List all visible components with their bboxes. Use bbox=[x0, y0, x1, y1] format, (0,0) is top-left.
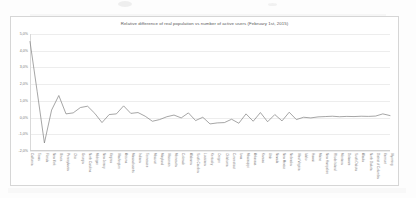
x-axis-tick-label: Mississippi bbox=[246, 153, 250, 167]
x-axis-tick-label: Idaho bbox=[304, 153, 308, 160]
x-axis-tick-label: Alaska bbox=[361, 153, 365, 162]
y-axis-tick-label: 0,0% bbox=[20, 116, 28, 120]
x-axis-tick-label: Georgia bbox=[81, 153, 85, 164]
x-axis-tick-label: Rhode Island bbox=[333, 153, 337, 170]
x-axis-tick-label: New Mexico bbox=[282, 153, 286, 169]
x-axis-tick-label: Pennsylvania bbox=[66, 153, 70, 171]
x-axis-tick-label: Montana bbox=[340, 153, 344, 165]
chart-title: Relative difference of real population v… bbox=[11, 21, 398, 26]
y-axis-tick-label: 1,0% bbox=[20, 99, 28, 103]
y-axis-tick-label: 5,0% bbox=[20, 32, 28, 36]
series-line-chart bbox=[30, 34, 390, 151]
x-axis-tick-label: Oregon bbox=[217, 153, 221, 163]
x-axis-tick-label: South Dakota bbox=[354, 153, 358, 171]
y-axis-tick-label: -1,0% bbox=[19, 132, 28, 136]
x-axis-tick-label: Wisconsin bbox=[167, 153, 171, 167]
x-axis-tick-label: Massachusetts bbox=[131, 153, 135, 173]
x-axis-tick-label: Washington bbox=[117, 153, 121, 169]
x-axis-tick-label: District of Columbia bbox=[376, 153, 380, 179]
x-axis-tick-label: Arizona bbox=[124, 153, 128, 163]
x-axis-tick-label: Oklahoma bbox=[225, 153, 229, 167]
x-axis-tick-label: West Virginia bbox=[297, 153, 301, 170]
scan-artifact bbox=[118, 1, 132, 7]
y-axis-tick-label: 3,0% bbox=[20, 65, 28, 69]
screenshot-page: Relative difference of real population v… bbox=[0, 0, 416, 198]
x-axis-tick-label: Illinois bbox=[59, 153, 63, 161]
x-axis-tick-label: California bbox=[30, 153, 34, 165]
x-axis-tick-label: Wyoming bbox=[390, 153, 394, 165]
x-axis-tick-label: Florida bbox=[45, 153, 49, 162]
x-axis-tick-label: Maryland bbox=[160, 153, 164, 165]
x-axis-tick-label: Connecticut bbox=[232, 153, 236, 169]
series-line bbox=[30, 42, 390, 143]
x-axis-tick-label: Arkansas bbox=[253, 153, 257, 165]
x-axis-tick-label: Kansas bbox=[261, 153, 265, 163]
x-axis-tick-label: Hawaii bbox=[311, 153, 315, 162]
x-axis-tick-label: Iowa bbox=[239, 153, 243, 159]
x-axis-tick-label: Tennessee bbox=[145, 153, 149, 167]
x-axis-tick-label: Kentucky bbox=[210, 153, 214, 165]
y-axis-tick-label: 2,0% bbox=[20, 82, 28, 86]
scan-artifact bbox=[268, 3, 277, 6]
x-axis-tick-label: Louisiana bbox=[203, 153, 207, 166]
plot-area: 5,0%4,0%3,0%2,0%1,0%0,0%-1,0%-2,0% bbox=[30, 34, 390, 151]
x-axis-tick-label: Minnesota bbox=[174, 153, 178, 167]
x-axis-tick-label: Indiana bbox=[138, 153, 142, 163]
gridline: -2,0% bbox=[30, 151, 390, 152]
x-axis-tick-label: Virginia bbox=[109, 153, 113, 163]
x-axis-tick-label: Utah bbox=[268, 153, 272, 159]
x-axis-tick-label: Nevada bbox=[275, 153, 279, 163]
x-axis-tick-label: Texas bbox=[37, 153, 41, 161]
x-axis-tick-label: North Dakota bbox=[369, 153, 373, 170]
x-axis-category-labels: CaliforniaTexasFloridaNew YorkIllinoisPe… bbox=[30, 153, 390, 198]
x-axis-tick-label: New Hampshire bbox=[325, 153, 329, 174]
x-axis-tick-label: Vermont bbox=[383, 153, 387, 164]
x-axis-tick-label: Michigan bbox=[95, 153, 99, 165]
x-axis-tick-label: Ohio bbox=[73, 153, 77, 159]
x-axis-tick-label: North Carolina bbox=[88, 153, 92, 172]
x-axis-tick-label: Nebraska bbox=[289, 153, 293, 166]
x-axis-tick-label: New York bbox=[52, 153, 56, 166]
x-axis-tick-label: Delaware bbox=[347, 153, 351, 166]
x-axis-tick-label: Colorado bbox=[181, 153, 185, 165]
x-axis-tick-label: Missouri bbox=[153, 153, 157, 164]
y-axis-tick-label: 4,0% bbox=[20, 49, 28, 53]
chart-container: Relative difference of real population v… bbox=[10, 16, 399, 186]
x-axis-tick-label: Alabama bbox=[189, 153, 193, 165]
x-axis-tick-label: South Carolina bbox=[196, 153, 200, 173]
x-axis-tick-label: Maine bbox=[318, 153, 322, 161]
y-axis-tick-label: -2,0% bbox=[19, 149, 28, 153]
x-axis-tick-label: New Jersey bbox=[102, 153, 106, 168]
